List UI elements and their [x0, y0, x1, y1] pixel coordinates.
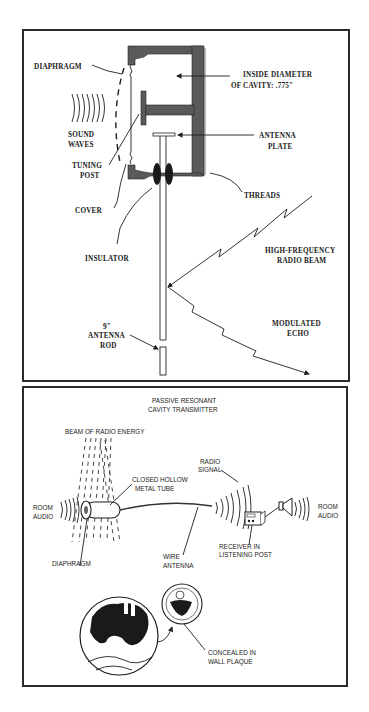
label-hf-beam-line1: HIGH-FREQUENCY [265, 247, 336, 255]
label-antenna-rod-line2: ANTENNA [88, 332, 126, 340]
label-room-audio-left-line2: AUDIO [33, 513, 53, 520]
label-tuning-post-line2: POST [80, 172, 100, 180]
label-modulated-echo-line1: MODULATED [272, 320, 321, 328]
label-beam: BEAM OF RADIO ENERGY [65, 428, 145, 435]
cavity-cross-section-diagram: DIAPHRAGM INSIDE DIAMETER OF CAVITY: .77… [24, 31, 348, 380]
label-inside-diameter-line2: OF CAVITY: .775" [231, 82, 293, 90]
metal-tube-icon [81, 501, 120, 519]
label-inside-diameter-line1: INSIDE DIAMETER [243, 71, 313, 79]
label-insulator: INSULATOR [85, 255, 129, 263]
label-tube-line2: METAL TUBE [135, 485, 174, 492]
label-modulated-echo-line2: ECHO [287, 330, 309, 338]
label-room-audio-right-line2: AUDIO [318, 512, 338, 519]
label-diaphragm: DIAPHRAGM [34, 63, 82, 71]
cavity-cross-section-panel: DIAPHRAGM INSIDE DIAMETER OF CAVITY: .77… [22, 29, 350, 382]
resonant-cavity [128, 46, 205, 179]
label-sound-waves-line2: WAVES [68, 141, 94, 149]
label-antenna-plate-line1: ANTENNA [259, 132, 297, 140]
receiver-icon [245, 507, 279, 525]
label-radio-signal-line1: RADIO [200, 458, 220, 465]
speaker-icon [279, 497, 309, 521]
label-wire-antenna-line1: WIRE [163, 553, 180, 560]
antenna-rod [153, 133, 175, 375]
label-hf-beam-line2: RADIO BEAM [277, 257, 326, 265]
diagram-title-line2: CAVITY TRANSMITTER [148, 406, 218, 413]
passive-transmitter-diagram: PASSIVE RESONANT CAVITY TRANSMITTER BEAM… [24, 388, 346, 685]
label-wire-antenna-line2: ANTENNA [163, 562, 194, 569]
label-tube-line1: CLOSED HOLLOW [132, 476, 189, 483]
radio-beam-rays [72, 438, 120, 542]
passive-cavity-transmitter-panel: PASSIVE RESONANT CAVITY TRANSMITTER BEAM… [22, 386, 348, 687]
label-concealed-line1: CONCEALED IN [208, 649, 256, 656]
magnified-plaque-detail [80, 597, 172, 675]
label-tuning-post-line1: TUNING [72, 162, 102, 170]
hf-radio-beam [168, 196, 312, 374]
label-sound-waves-line1: SOUND [68, 131, 94, 139]
label-diaphragm-bottom: DIAPHRAGM [52, 560, 91, 567]
sound-waves-icon [72, 94, 105, 122]
wall-plaque-eagle-icon [162, 584, 202, 624]
label-threads: THREADS [244, 192, 280, 200]
label-receiver-line1: RECEIVER IN [219, 543, 260, 550]
label-antenna-rod-line3: ROD [100, 342, 117, 350]
label-receiver-line2: LISTENING POST [219, 551, 272, 558]
label-cover: COVER [75, 207, 103, 215]
label-antenna-plate-line2: PLATE [268, 143, 292, 151]
diagram-title-line1: PASSIVE RESONANT [152, 397, 216, 404]
label-antenna-rod-line1: 9" [103, 323, 111, 331]
label-room-audio-left-line1: ROOM [33, 504, 53, 511]
label-room-audio-right-line1: ROOM [318, 503, 338, 510]
label-radio-signal-line2: SIGNAL [198, 466, 222, 473]
wire-antenna [120, 503, 212, 510]
label-concealed-line2: WALL PLAQUE [208, 658, 253, 666]
